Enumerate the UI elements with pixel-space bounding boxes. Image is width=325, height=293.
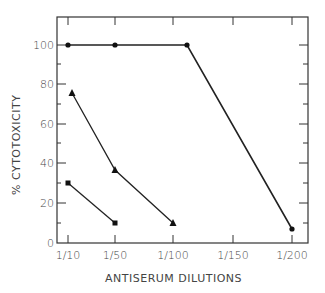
left-ticks xyxy=(57,45,66,223)
right-ticks xyxy=(299,45,308,223)
square-marker xyxy=(66,181,71,186)
x-label-1-10: 1/10 xyxy=(56,249,81,262)
y-tick-labels: 100 80 60 40 20 0 xyxy=(33,39,54,250)
y-axis-title: % CYTOTOXICITY xyxy=(10,95,23,195)
y-label-20: 20 xyxy=(40,197,54,210)
chart: 100 80 60 40 20 0 1/10 1/50 1/100 1/150 … xyxy=(0,0,325,293)
y-label-0: 0 xyxy=(47,237,54,250)
x-tick-labels: 1/10 1/50 1/100 1/150 1/200 xyxy=(56,249,308,262)
y-label-80: 80 xyxy=(40,78,54,91)
circle-marker xyxy=(184,42,189,47)
square-marker xyxy=(113,221,118,226)
circle-marker xyxy=(65,42,70,47)
x-label-1-100: 1/100 xyxy=(157,249,189,262)
series-circles xyxy=(65,42,294,231)
top-ticks xyxy=(68,17,292,25)
triangle-marker xyxy=(69,89,76,96)
x-label-1-150: 1/150 xyxy=(217,249,249,262)
plot-frame xyxy=(57,17,308,243)
y-label-60: 60 xyxy=(40,118,54,131)
y-label-100: 100 xyxy=(33,39,54,52)
triangle-marker xyxy=(112,166,119,173)
y-label-40: 40 xyxy=(40,157,54,170)
circle-marker xyxy=(289,226,294,231)
x-label-1-200: 1/200 xyxy=(276,249,308,262)
series-triangles xyxy=(69,89,177,226)
series-squares xyxy=(66,181,118,226)
circle-marker xyxy=(112,42,117,47)
x-axis-title: ANTISERUM DILUTIONS xyxy=(105,272,242,285)
bottom-ticks xyxy=(68,235,292,243)
x-label-1-50: 1/50 xyxy=(103,249,128,262)
